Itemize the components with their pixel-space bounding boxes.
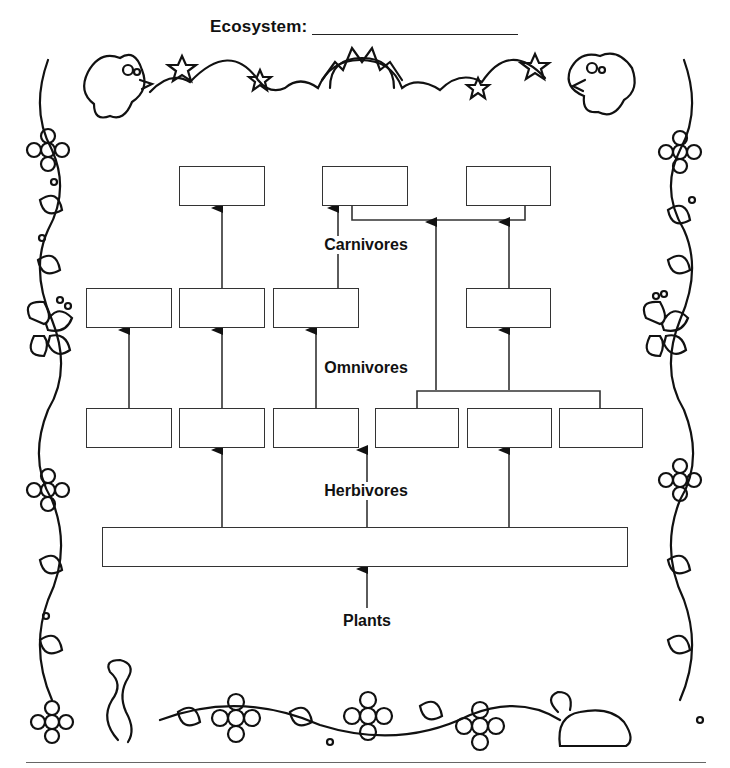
omnivore-box-1[interactable] — [86, 288, 172, 328]
herbivore-box-2[interactable] — [179, 408, 265, 448]
plants-box[interactable] — [102, 527, 628, 567]
carnivore-box-2[interactable] — [322, 166, 408, 206]
omnivore-box-2[interactable] — [179, 288, 265, 328]
omnivore-box-3[interactable] — [273, 288, 359, 328]
herbivore-box-5[interactable] — [467, 408, 552, 448]
label-plants: Plants — [342, 612, 392, 630]
carnivore-box-1[interactable] — [179, 166, 265, 206]
label-carnivores: Carnivores — [323, 236, 409, 254]
omnivore-box-4[interactable] — [466, 288, 551, 328]
footer-divider — [26, 762, 706, 763]
herbivore-box-1[interactable] — [86, 408, 172, 448]
connector-h4-h6 — [417, 391, 600, 408]
label-herbivores: Herbivores — [323, 482, 409, 500]
food-web-connectors — [0, 0, 730, 768]
herbivore-box-4[interactable] — [375, 408, 459, 448]
carnivore-box-3[interactable] — [466, 166, 551, 206]
herbivore-box-3[interactable] — [273, 408, 359, 448]
label-omnivores: Omnivores — [323, 359, 409, 377]
herbivore-box-6[interactable] — [559, 408, 643, 448]
connector-c2-c3 — [352, 206, 525, 220]
